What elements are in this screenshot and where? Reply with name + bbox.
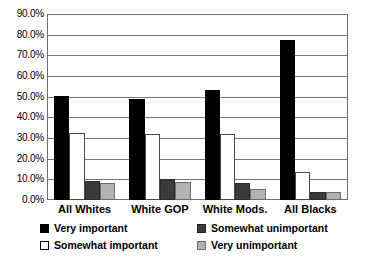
legend-item[interactable]: Very unimportant: [197, 239, 297, 251]
x-axis-tick-label: White GOP: [122, 203, 197, 216]
bar: [250, 189, 265, 200]
y-axis: 0.0%10.0%20.0%30.0%40.0%50.0%60.0%70.0%8…: [0, 14, 44, 200]
bar: [145, 134, 160, 200]
y-axis-tick-label: 60.0%: [0, 71, 44, 81]
bar: [160, 179, 175, 200]
y-axis-tick-label: 20.0%: [0, 154, 44, 164]
bar: [310, 192, 325, 200]
x-axis-tick-label: White Mods.: [198, 203, 273, 216]
bar: [69, 133, 84, 200]
legend-swatch-icon: [197, 241, 206, 250]
bar: [100, 183, 115, 200]
chart-legend: Very importantSomewhat unimportantSomewh…: [40, 222, 350, 260]
bar-group: [205, 14, 266, 200]
y-axis-tick-label: 70.0%: [0, 50, 44, 60]
bar-group: [280, 14, 341, 200]
bar: [326, 192, 341, 200]
bar-chart: 0.0%10.0%20.0%30.0%40.0%50.0%60.0%70.0%8…: [0, 0, 367, 265]
bar: [235, 183, 250, 200]
bar: [220, 134, 235, 200]
bar: [280, 40, 295, 200]
legend-swatch-icon: [40, 241, 49, 250]
y-axis-tick-label: 10.0%: [0, 174, 44, 184]
bar: [85, 181, 100, 200]
legend-item-label: Somewhat important: [54, 239, 158, 251]
x-axis-tick-label: All Whites: [47, 203, 122, 216]
y-axis-tick-label: 80.0%: [0, 30, 44, 40]
bar: [129, 99, 144, 200]
legend-item[interactable]: Somewhat important: [40, 239, 158, 251]
legend-swatch-icon: [40, 224, 49, 233]
y-axis-tick-label: 30.0%: [0, 133, 44, 143]
bars-layer: [47, 14, 348, 200]
y-axis-tick-label: 50.0%: [0, 92, 44, 102]
legend-item[interactable]: Somewhat unimportant: [197, 222, 328, 234]
legend-item-label: Very important: [54, 222, 128, 234]
bar-group: [129, 14, 190, 200]
bar: [205, 90, 220, 200]
bar-group: [54, 14, 115, 200]
bar: [54, 96, 69, 200]
y-axis-tick-label: 90.0%: [0, 9, 44, 19]
x-axis-tick-label: All Blacks: [273, 203, 348, 216]
legend-swatch-icon: [197, 224, 206, 233]
legend-item-label: Very unimportant: [211, 239, 297, 251]
x-axis: All WhitesWhite GOPWhite Mods.All Blacks: [47, 201, 348, 217]
chart-title-cropped: [0, 0, 367, 7]
bar: [175, 182, 190, 200]
y-axis-tick-label: 0.0%: [0, 195, 44, 205]
y-axis-tick-label: 40.0%: [0, 112, 44, 122]
legend-item-label: Somewhat unimportant: [211, 222, 328, 234]
legend-item[interactable]: Very important: [40, 222, 128, 234]
bar: [295, 172, 310, 200]
